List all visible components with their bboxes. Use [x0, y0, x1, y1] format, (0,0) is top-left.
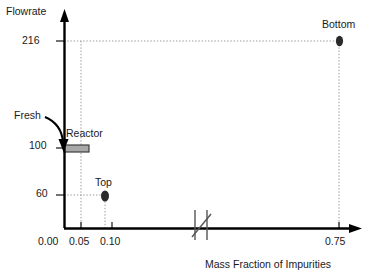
x-axis: [64, 222, 362, 233]
annotation-top: Top: [95, 177, 112, 188]
data-point-top[interactable]: [101, 191, 109, 202]
reactor-bar: [64, 145, 89, 152]
x-axis-arrowhead: [349, 224, 362, 233]
annotation-reactor: Reactor: [66, 128, 103, 139]
annotation-fresh: Fresh: [14, 110, 41, 121]
axis-break-icon: [192, 210, 211, 240]
y-tick-label-100: 100: [29, 140, 47, 151]
x-tick-label-000: 0.00: [38, 236, 58, 247]
x-tick-label-005: 0.05: [69, 236, 89, 247]
chart-figure: Flowrate Mass Fraction of Impurities 216…: [0, 0, 374, 278]
y-axis-arrowhead: [60, 9, 69, 22]
x-tick-label-075: 0.75: [325, 236, 345, 247]
x-axis-title: Mass Fraction of Impurities: [205, 259, 331, 270]
y-axis: [56, 9, 69, 228]
annotation-bottom: Bottom: [322, 19, 355, 30]
fresh-arrow-curve: [45, 117, 63, 142]
y-tick-label-60: 60: [36, 188, 48, 199]
x-tick-label-010: 0.10: [100, 236, 120, 247]
y-axis-title: Flowrate: [6, 6, 46, 17]
y-tick-label-216: 216: [22, 35, 40, 46]
data-point-bottom[interactable]: [336, 36, 343, 46]
